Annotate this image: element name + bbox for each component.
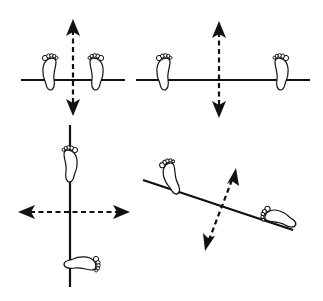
top-footprint-icon: [62, 146, 78, 182]
panel-rotated-stance: [18, 125, 130, 287]
left-footprint-icon: [42, 54, 58, 90]
left-footprint-icon: [158, 157, 184, 196]
dashed-vertical-arrow: [212, 21, 226, 118]
panel-wide-stance: [136, 21, 310, 118]
panel-narrow-stance: [21, 19, 125, 116]
right-footprint-icon: [88, 54, 104, 90]
arrow-head-up-icon: [227, 168, 239, 186]
panel-oblique-stance: [143, 157, 298, 251]
dashed-horizontal-arrow: [18, 205, 130, 219]
right-footprint-icon: [273, 54, 289, 90]
reference-line: [143, 180, 293, 230]
arrow-head-down-icon: [203, 233, 215, 251]
foot-placement-diagram: [0, 0, 323, 301]
left-footprint-icon: [156, 54, 172, 90]
right-footprint-icon: [259, 205, 298, 232]
dashed-vertical-arrow: [66, 19, 80, 116]
